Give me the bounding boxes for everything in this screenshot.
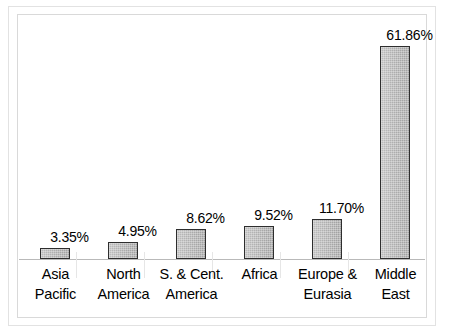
category-label-line1: S. & Cent. <box>159 266 223 282</box>
bar-africa[interactable]: 9.52% <box>244 226 274 259</box>
category-label-north-america: North America <box>85 264 162 304</box>
bar-s-and-cent-america[interactable]: 8.62% <box>176 229 206 259</box>
category-label-line2: America <box>85 284 162 304</box>
bar-column: 9.52% <box>231 16 288 259</box>
bar-column: 4.95% <box>95 16 152 259</box>
bar-column: 8.62% <box>163 16 220 259</box>
bar-value-label: 61.86% <box>369 28 450 43</box>
bar-column: 61.86% <box>367 16 424 259</box>
category-label-line1: Asia <box>42 266 69 282</box>
category-label-s-and-cent-america: S. & Cent. America <box>153 264 230 304</box>
category-label-europe-eurasia: Europe & Eurasia <box>289 264 366 304</box>
category-label-line2: Pacific <box>17 284 94 304</box>
category-label-line1: Middle <box>375 266 417 282</box>
x-axis-labels: Asia Pacific North America S. & Cent. Am… <box>19 264 425 314</box>
category-label-africa: Africa <box>221 264 298 284</box>
category-label-line1: North <box>106 266 140 282</box>
bar-series: 3.35% 4.95% 8.62% 9.52% 11.70% 61.8 <box>19 16 425 259</box>
bar-column: 3.35% <box>27 16 84 259</box>
category-label-line1: Africa <box>242 266 278 282</box>
category-label-line1: Europe & <box>298 266 357 282</box>
category-label-line2: America <box>153 284 230 304</box>
category-label-asia-pacific: Asia Pacific <box>17 264 94 304</box>
category-label-middle-east: Middle East <box>357 264 434 304</box>
bar-chart: 3.35% 4.95% 8.62% 9.52% 11.70% 61.8 <box>0 0 452 333</box>
bar-asia-pacific[interactable]: 3.35% <box>40 248 70 259</box>
bar-north-america[interactable]: 4.95% <box>108 242 138 259</box>
category-label-line2: Eurasia <box>289 284 366 304</box>
bar-europe-eurasia[interactable]: 11.70% <box>312 219 342 259</box>
bar-middle-east[interactable]: 61.86% <box>380 46 410 259</box>
bar-column: 11.70% <box>299 16 356 259</box>
x-axis-line <box>19 259 425 260</box>
category-label-line2: East <box>357 284 434 304</box>
